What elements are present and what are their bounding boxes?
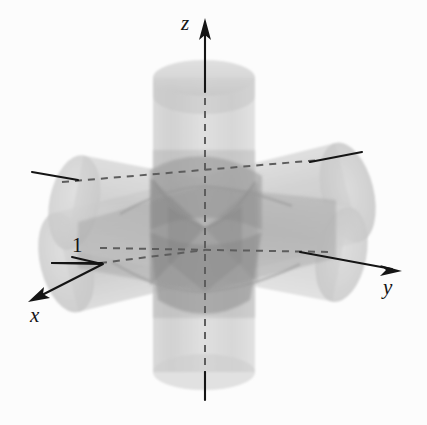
radius-label: 1 [72, 233, 83, 257]
radius-leader-elbow [52, 263, 100, 264]
axis-label-z: z [180, 11, 189, 35]
axis-label-y: y [381, 275, 393, 299]
three-cylinders-diagram: z x y 1 [0, 0, 427, 425]
axis-label-x: x [29, 303, 40, 327]
figure-canvas: z x y 1 [0, 0, 427, 425]
axis-x-arrowhead [28, 287, 50, 302]
